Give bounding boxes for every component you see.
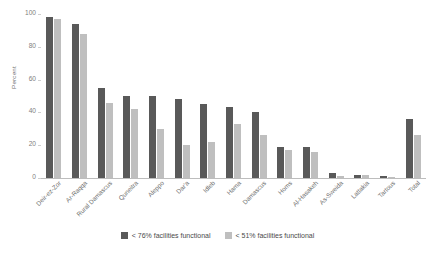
bar-group [323, 14, 349, 178]
bar-group [92, 14, 118, 178]
y-tick-label: 40 [14, 108, 36, 115]
bar [388, 177, 395, 178]
bar [362, 175, 369, 178]
bar-group [400, 14, 426, 178]
bar-group [221, 14, 247, 178]
y-tick-label: 100 [14, 10, 36, 17]
bar-group [41, 14, 67, 178]
bar [234, 124, 241, 178]
bar-group [298, 14, 324, 178]
legend-label: < 76% facilities functional [132, 232, 211, 239]
legend-swatch-icon [225, 232, 232, 239]
bar [406, 119, 413, 178]
bar [329, 173, 336, 178]
bar [252, 112, 259, 178]
bar [183, 145, 190, 178]
bar [337, 176, 344, 178]
bar [131, 109, 138, 178]
y-tick-label: 0 [14, 174, 36, 181]
bar [414, 135, 421, 178]
bar [354, 175, 361, 178]
bar [98, 88, 105, 178]
legend-label: < 51% facilities functional [236, 232, 315, 239]
x-axis-line [41, 178, 426, 179]
bar [285, 150, 292, 178]
bar [46, 17, 53, 178]
bar-group [118, 14, 144, 178]
plot-area [41, 14, 426, 178]
bar-group [144, 14, 170, 178]
bar-chart: Percent 020406080100 Deir-ez-ZorAr-Raqqa… [0, 0, 435, 256]
legend-swatch-icon [121, 232, 128, 239]
bar-group [349, 14, 375, 178]
bar [72, 24, 79, 178]
y-tick-label: 20 [14, 141, 36, 148]
legend-item[interactable]: < 51% facilities functional [225, 232, 315, 239]
bar-group [67, 14, 93, 178]
bar-group [246, 14, 272, 178]
bar [54, 19, 61, 178]
bar [311, 152, 318, 178]
bar [277, 147, 284, 178]
bar [303, 147, 310, 178]
y-tick-label: 80 [14, 43, 36, 50]
bar-group [375, 14, 401, 178]
bar-group [195, 14, 221, 178]
bar [380, 176, 387, 178]
bar [149, 96, 156, 178]
bar [208, 142, 215, 178]
bar-group [272, 14, 298, 178]
y-tick-label: 60 [14, 76, 36, 83]
bar [175, 99, 182, 178]
bar [260, 135, 267, 178]
bar [106, 103, 113, 178]
bar [226, 107, 233, 178]
bar [157, 129, 164, 178]
chart-legend: < 76% facilities functional< 51% facilit… [0, 232, 435, 239]
bar [123, 96, 130, 178]
bar-group [169, 14, 195, 178]
bar [200, 104, 207, 178]
legend-item[interactable]: < 76% facilities functional [121, 232, 211, 239]
bar [80, 34, 87, 178]
